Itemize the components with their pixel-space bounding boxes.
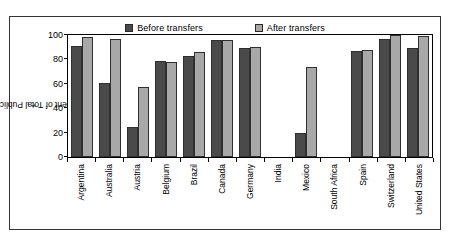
bar-group xyxy=(348,35,376,157)
bar-after-transfers xyxy=(306,67,317,157)
x-tick-mark xyxy=(123,158,124,162)
y-tick-label: 40 xyxy=(53,104,68,113)
x-tick-mark xyxy=(236,158,237,162)
legend-swatch-before-icon xyxy=(125,24,133,32)
x-axis-label-text: Canada xyxy=(217,164,226,194)
x-axis-label-text: Spain xyxy=(358,164,367,186)
bar-after-transfers xyxy=(194,52,205,157)
bar-group xyxy=(96,35,124,157)
x-axis-label-text: Australia xyxy=(105,164,114,197)
x-tick-mark xyxy=(67,158,68,162)
x-tick-mark xyxy=(433,158,434,162)
bar-after-transfers xyxy=(362,50,373,157)
x-tick-mark xyxy=(208,158,209,162)
x-axis-label: Spain xyxy=(349,164,377,226)
x-axis-label: Austria xyxy=(123,164,151,226)
x-tick-mark xyxy=(151,158,152,162)
bar-after-transfers xyxy=(166,62,177,157)
plot-area: 020406080100 xyxy=(67,34,433,158)
x-axis-label: United States xyxy=(405,164,433,226)
x-axis-labels: ArgentinaAustraliaAustriaBelgiumBrazilCa… xyxy=(67,164,433,226)
x-tick-mark xyxy=(320,158,321,162)
bar-before-transfers xyxy=(379,39,390,157)
x-tick-mark xyxy=(292,158,293,162)
bar-before-transfers xyxy=(183,56,194,157)
bar-group xyxy=(376,35,404,157)
bar-group xyxy=(320,35,348,157)
y-axis-title: Percent of Total Public Spending1 xyxy=(16,35,42,175)
bar-group xyxy=(180,35,208,157)
x-axis-label-text: Germany xyxy=(246,164,255,199)
bar-group xyxy=(208,35,236,157)
x-axis-label: Switzerland xyxy=(377,164,405,226)
x-axis-label-text: Mexico xyxy=(302,164,311,191)
x-axis-label-text: Argentina xyxy=(77,164,86,200)
y-tick-label: 20 xyxy=(53,128,68,137)
bar-after-transfers xyxy=(250,47,261,157)
legend-swatch-after-icon xyxy=(255,24,263,32)
legend-label-after-transfers: After transfers xyxy=(267,24,325,33)
bar-group xyxy=(264,35,292,157)
bar-group xyxy=(152,35,180,157)
legend-label-before-transfers: Before transfers xyxy=(137,24,203,33)
x-axis-label: Argentina xyxy=(67,164,95,226)
bar-group xyxy=(124,35,152,157)
x-tick-mark xyxy=(180,158,181,162)
x-axis-label-text: Austria xyxy=(133,164,142,190)
bar-before-transfers xyxy=(155,61,166,157)
bar-group xyxy=(236,35,264,157)
bar-before-transfers xyxy=(407,48,418,157)
x-tick-mark xyxy=(264,158,265,162)
x-tick-mark xyxy=(377,158,378,162)
x-axis-label: India xyxy=(264,164,292,226)
x-axis-tickmarks xyxy=(67,158,433,163)
bar-before-transfers xyxy=(71,46,82,157)
bar-before-transfers xyxy=(211,40,222,157)
y-tick-label: 60 xyxy=(53,79,68,88)
y-tick-label: 80 xyxy=(53,55,68,64)
bar-after-transfers xyxy=(222,40,233,157)
bar-after-transfers xyxy=(418,36,429,157)
x-axis-label-text: Brazil xyxy=(189,164,198,185)
x-tick-mark xyxy=(95,158,96,162)
legend-item-after-transfers: After transfers xyxy=(255,24,325,33)
bar-groups xyxy=(68,35,432,157)
bar-group xyxy=(68,35,96,157)
bar-before-transfers xyxy=(295,133,306,157)
x-axis-label: Belgium xyxy=(151,164,179,226)
x-axis-label: Canada xyxy=(208,164,236,226)
x-axis-label: Mexico xyxy=(292,164,320,226)
bar-group xyxy=(292,35,320,157)
x-axis-label-text: Belgium xyxy=(161,164,170,195)
x-axis-label: Germany xyxy=(236,164,264,226)
bar-after-transfers xyxy=(390,35,401,157)
x-tick-mark xyxy=(405,158,406,162)
x-axis-label-text: India xyxy=(274,164,283,182)
x-axis-label: Australia xyxy=(95,164,123,226)
bar-after-transfers xyxy=(138,87,149,157)
x-tick-mark xyxy=(349,158,350,162)
bar-after-transfers xyxy=(82,37,93,157)
chart-figure: Before transfers After transfers Percent… xyxy=(9,16,441,230)
bar-after-transfers xyxy=(110,39,121,157)
bar-before-transfers xyxy=(99,83,110,157)
bar-before-transfers xyxy=(351,51,362,157)
x-axis-label-text: United States xyxy=(414,164,423,215)
x-axis-label: South Africa xyxy=(320,164,348,226)
bar-before-transfers xyxy=(127,127,138,158)
bar-group xyxy=(404,35,432,157)
bar-before-transfers xyxy=(239,48,250,157)
x-axis-label-text: Switzerland xyxy=(386,164,395,208)
x-axis-label-text: South Africa xyxy=(330,164,339,210)
chart-legend: Before transfers After transfers xyxy=(10,21,440,35)
legend-item-before-transfers: Before transfers xyxy=(125,24,203,33)
y-tick-label: 100 xyxy=(48,31,68,40)
x-axis-label: Brazil xyxy=(180,164,208,226)
